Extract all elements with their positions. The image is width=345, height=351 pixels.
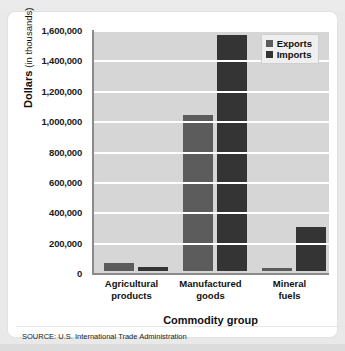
page-background-bottom [0,344,345,351]
x-axis-tick-label: Agriculturalproducts [92,278,171,301]
x-axis-title: Commodity group [92,314,329,326]
y-axis-tick-label: 0 [77,268,82,279]
gridline [94,121,329,123]
gridline [94,182,329,184]
bar-exports-2 [262,268,292,271]
y-axis-tick-label: 600,000 [49,176,82,187]
source-note: SOURCE: U.S. International Trade Adminis… [22,332,187,341]
screenshot-stage: Dollars (in thousands) 1,600,0001,400,00… [0,0,345,351]
x-axis-tick-label-line: fuels [250,290,329,302]
gridline [94,30,329,32]
legend-label-imports: Imports [277,49,312,60]
legend-label-exports: Exports [277,38,312,49]
legend-item-exports: Exports [266,38,312,49]
y-axis-tick-labels: 1,600,0001,400,0001,200,0001,000,000800,… [8,30,88,275]
legend-swatch-exports-icon [266,40,273,47]
source-divider [16,326,345,327]
x-axis-tick-label-line: Manufactured [171,278,250,290]
x-axis-tick-label: Mineralfuels [250,278,329,301]
page-background-top [0,0,345,12]
x-axis-tick-labels: AgriculturalproductsManufacturedgoodsMin… [92,278,329,312]
legend-item-imports: Imports [266,49,312,60]
bar-imports-2 [296,227,326,271]
x-axis-tick-label-line: Agricultural [92,278,171,290]
x-axis-tick-label-line: goods [171,290,250,302]
bar-group [175,30,254,271]
y-axis-tick-label: 1,600,000 [42,25,82,36]
y-axis-tick-label: 400,000 [49,207,82,218]
gridline [94,243,329,245]
gridline [94,212,329,214]
y-axis-tick-label: 200,000 [49,237,82,248]
plot-area-wrapper: Exports Imports [92,30,329,275]
x-axis-tick-label: Manufacturedgoods [171,278,250,301]
legend: Exports Imports [261,34,319,64]
bar-group [96,30,175,271]
y-axis-tick-label: 1,200,000 [42,85,82,96]
bar-group [254,30,333,271]
plot-area [92,30,329,275]
gridline [94,91,329,93]
bar-imports-0 [138,267,168,271]
bar-series-container [96,30,329,271]
x-axis-tick-label-line: Mineral [250,278,329,290]
y-axis-tick-label: 800,000 [49,146,82,157]
y-axis-tick-label: 1,000,000 [42,116,82,127]
gridline [94,152,329,154]
bar-exports-0 [104,263,134,271]
x-axis-tick-label-line: products [92,290,171,302]
bar-exports-1 [183,115,213,271]
y-axis-tick-label: 1,400,000 [42,55,82,66]
chart-card: Dollars (in thousands) 1,600,0001,400,00… [8,12,337,337]
legend-swatch-imports-icon [266,51,273,58]
